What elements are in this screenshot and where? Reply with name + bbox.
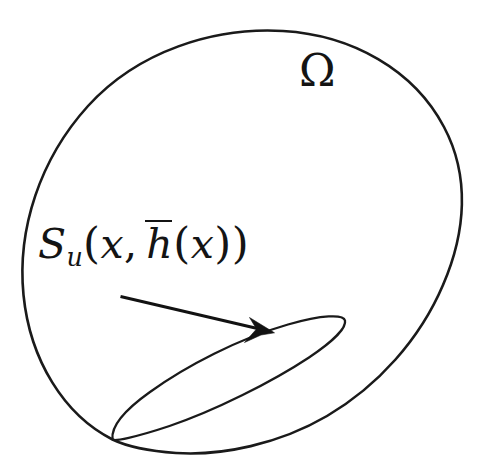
h-open-paren: ( (173, 218, 190, 268)
su-open-paren: ( (83, 218, 100, 268)
h-close-paren: ) (214, 218, 231, 268)
su-arg-x: x (100, 220, 124, 268)
su-close-paren: ) (232, 218, 249, 268)
su-surface-label: Su(x, h(x)) (38, 222, 249, 271)
su-surface-ellipse-path (112, 316, 345, 440)
omega-region-label: Ω (299, 49, 335, 93)
h-arg-x: x (191, 220, 215, 268)
h-base: h (146, 220, 173, 268)
label-leader-line (121, 297, 267, 331)
figure-canvas: Ω Su(x, h(x)) (0, 0, 484, 470)
su-subscript: u (67, 242, 83, 272)
h-bar-symbol: h (146, 224, 173, 265)
arrow-head-icon (245, 318, 275, 343)
su-symbol: S (38, 220, 67, 268)
su-comma: , (124, 220, 138, 268)
